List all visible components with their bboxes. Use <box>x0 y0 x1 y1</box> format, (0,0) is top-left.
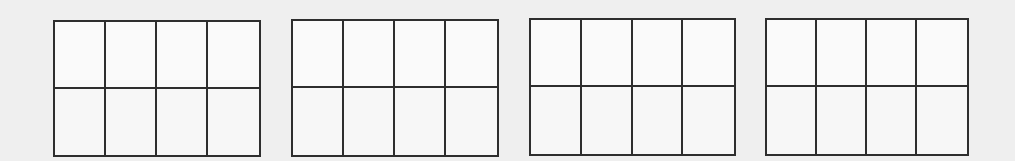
grid-cell <box>208 22 259 89</box>
grid-cell <box>531 20 582 87</box>
grid-cell <box>817 87 867 154</box>
grid-cell <box>395 88 446 155</box>
grid-cell <box>344 88 395 155</box>
grid-cell <box>55 22 106 89</box>
grid-cell <box>683 20 734 87</box>
grid-cell <box>157 22 208 89</box>
grid-cell <box>767 20 817 87</box>
grid-cell <box>817 20 867 87</box>
grid-cell <box>867 20 917 87</box>
grid-cell <box>106 89 157 156</box>
grid-cell <box>867 87 917 154</box>
grid-cell <box>531 87 582 154</box>
grid-table-4 <box>765 18 969 156</box>
grid-cell <box>917 20 967 87</box>
grid-cell <box>446 21 497 88</box>
grid-cell <box>633 87 684 154</box>
grid-cell <box>157 89 208 156</box>
grid-table-2 <box>291 19 499 157</box>
grid-table-3 <box>529 18 736 156</box>
grid-cell <box>55 89 106 156</box>
grid-cell <box>633 20 684 87</box>
grid-cell <box>446 88 497 155</box>
grid-cell <box>582 87 633 154</box>
grid-cell <box>917 87 967 154</box>
grid-cell <box>582 20 633 87</box>
grid-cell <box>683 87 734 154</box>
grid-cell <box>106 22 157 89</box>
grid-cell <box>767 87 817 154</box>
grid-cell <box>293 88 344 155</box>
grid-cell <box>344 21 395 88</box>
grid-cell <box>293 21 344 88</box>
grid-table-1 <box>53 20 261 157</box>
grid-cell <box>395 21 446 88</box>
grid-cell <box>208 89 259 156</box>
